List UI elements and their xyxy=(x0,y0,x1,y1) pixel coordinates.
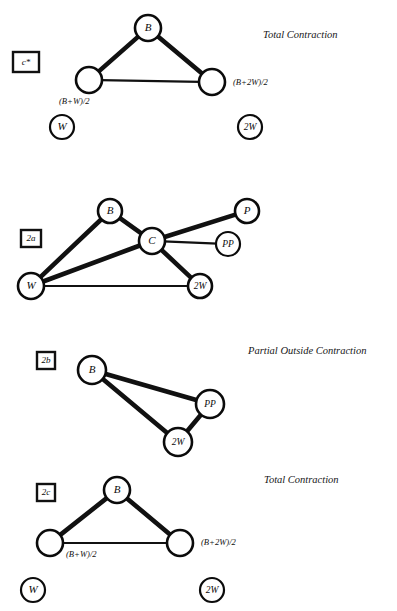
panel-2-node-c-label: C xyxy=(148,234,156,246)
panel-2-node-b-label: B xyxy=(107,204,114,216)
panel-1-edge-b-b2w2 xyxy=(157,35,203,74)
panel-2-node-b: B xyxy=(98,199,122,223)
panel-2-node-pp: PP xyxy=(216,232,240,256)
panel-3-node-b-label: B xyxy=(89,363,96,375)
panel-2-edge-c-2w xyxy=(160,249,192,279)
captions-layer: Total ContractionPartial Outside Contrac… xyxy=(247,29,366,485)
tag-panel-1: c* xyxy=(13,52,39,72)
panel-4-node-2w: 2W xyxy=(200,578,224,602)
panel-3-node-pp: PP xyxy=(196,390,224,418)
panel-1-node-2w-label: 2W xyxy=(244,122,258,132)
caption-panel-4: Total Contraction xyxy=(264,474,339,485)
panel-1-node-b2w2-circle xyxy=(199,69,225,95)
panel-3-edge-pp-2w xyxy=(186,414,202,433)
panel-4-edge-b-bw2 xyxy=(59,497,108,536)
panel-4-formula-b2w2: (B+2W)/2 xyxy=(201,537,237,547)
panel-4-node-w: W xyxy=(21,578,45,602)
panel-2-node-p-label: P xyxy=(243,204,251,216)
panel-1-formula-bw2: (B+W)/2 xyxy=(59,96,90,106)
caption-panel-3: Partial Outside Contraction xyxy=(247,345,366,356)
panel-1-node-2w: 2W xyxy=(238,115,262,139)
panel-4-node-b2w2-circle xyxy=(167,530,193,556)
panel-3-node-pp-label: PP xyxy=(203,399,216,409)
panel-1-edge-b-bw2 xyxy=(98,36,140,73)
annotations-layer: (B+W)/2(B+2W)/2(B+W)/2(B+2W)/2 xyxy=(59,77,269,559)
panel-2-node-pp-label: PP xyxy=(221,239,234,249)
tag-panel-1-text: c* xyxy=(22,57,31,67)
panel-1-node-bw2-circle xyxy=(76,67,102,93)
tag-panel-3: 2b xyxy=(37,352,55,369)
panel-2-edge-b-c xyxy=(119,217,143,234)
panel-1-edge-bw2-b2w2 xyxy=(100,80,200,82)
panel-4-node-w-label: W xyxy=(28,583,38,595)
caption-panel-1: Total Contraction xyxy=(263,29,338,40)
panel-2-node-2w: 2W xyxy=(188,274,212,298)
tag-panel-3-text: 2b xyxy=(42,355,52,365)
panel-1-node-b: B xyxy=(135,15,161,41)
panel-4-node-b2w2 xyxy=(167,530,193,556)
panel-1-node-w: W xyxy=(50,115,74,139)
tag-panel-2-text: 2a xyxy=(27,233,37,243)
panel-2-node-2w-label: 2W xyxy=(194,281,208,291)
panel-2-node-c: C xyxy=(139,228,165,254)
panel-2-node-w: W xyxy=(18,273,44,299)
panel-3-edge-b-2w xyxy=(102,378,169,434)
panel-1-node-b-label: B xyxy=(145,21,152,33)
panel-3-edge-b-pp xyxy=(104,373,198,400)
panel-4-formula-bw2: (B+W)/2 xyxy=(66,549,97,559)
panel-4-node-2w-label: 2W xyxy=(206,585,220,595)
panel-4-edge-b-b2w2 xyxy=(126,497,171,535)
panel-2-node-p: P xyxy=(235,199,259,223)
nodes-layer: BW2WBCPPPW2WBPP2WBW2W xyxy=(18,15,262,602)
panel-1-formula-b2w2: (B+2W)/2 xyxy=(233,77,269,87)
figure-root: BW2WBCPPPW2WBPP2WBW2W (B+W)/2(B+2W)/2(B+… xyxy=(0,0,397,611)
tag-panel-2: 2a xyxy=(21,230,41,247)
panel-1-node-w-label: W xyxy=(57,120,67,132)
panel-4-node-b-label: B xyxy=(114,483,121,495)
panel-3-node-2w: 2W xyxy=(164,428,192,456)
panel-3-node-2w-label: 2W xyxy=(172,437,186,447)
panel-3-node-b: B xyxy=(78,356,106,384)
tag-panel-4: 2c xyxy=(37,484,55,501)
panel-1-node-bw2 xyxy=(76,67,102,93)
panel-2-node-w-label: W xyxy=(26,279,36,291)
tag-panel-4-text: 2c xyxy=(42,487,51,497)
panel-1-node-b2w2 xyxy=(199,69,225,95)
panel-4-node-b: B xyxy=(104,477,130,503)
contraction-diagram-canvas: BW2WBCPPPW2WBPP2WBW2W (B+W)/2(B+2W)/2(B+… xyxy=(0,0,397,611)
panel-2-edge-c-pp xyxy=(163,241,217,243)
panel-4-node-bw2-circle xyxy=(37,530,63,556)
panel-4-node-bw2 xyxy=(37,530,63,556)
